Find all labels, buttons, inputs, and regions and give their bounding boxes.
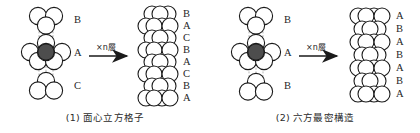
panel-hcp: ×n層 B A B A B A B A B A (2) 六方最密構造 — [210, 0, 420, 133]
fcc-stack-label-7: B — [183, 81, 190, 92]
hcp-diagram-svg — [210, 0, 420, 112]
fcc-stack-label-6: C — [183, 69, 190, 80]
hcp-arrow-label: ×n層 — [306, 44, 326, 52]
hcp-layer-B-top — [239, 7, 272, 34]
fcc-cluster-label-C: C — [74, 81, 81, 92]
hcp-left-cluster — [231, 7, 280, 100]
hcp-stack-column — [350, 8, 390, 102]
fcc-layer-C-bottom — [29, 72, 62, 99]
panel-fcc: ×n層 B A C B A C B A C B A (1) 面心立方格子 — [0, 0, 210, 133]
hcp-stack-label-4: B — [396, 50, 403, 61]
hcp-stack-label-2: B — [396, 24, 403, 35]
fcc-stack-label-1: B — [183, 9, 190, 20]
fcc-layer-B-top — [29, 7, 62, 34]
fcc-stack-label-5: A — [183, 57, 191, 68]
hcp-stack-label-1: A — [396, 11, 404, 22]
fcc-arrow-label: ×n層 — [96, 44, 116, 52]
hcp-stack-label-7: A — [396, 89, 404, 100]
fcc-stack-column — [138, 6, 178, 106]
hcp-stack-label-5: A — [396, 63, 404, 74]
fcc-diagram-svg — [0, 0, 210, 112]
fcc-stack-label-8: A — [183, 93, 191, 104]
fcc-center-atom-highlight — [38, 44, 54, 60]
fcc-cluster-label-B: B — [74, 15, 81, 26]
fcc-cluster-label-A: A — [74, 48, 82, 59]
hcp-cluster-label-B-top: B — [284, 15, 291, 26]
hcp-stack-label-3: A — [396, 37, 404, 48]
fcc-stack-label-4: B — [183, 45, 190, 56]
hcp-layer-B-bottom — [239, 73, 272, 100]
hcp-center-atom-highlight — [248, 44, 264, 60]
hcp-caption: (2) 六方最密構造 — [210, 110, 420, 124]
fcc-stack-label-3: C — [183, 33, 190, 44]
hcp-stack-label-6: B — [396, 76, 403, 87]
figure-root: ×n層 B A C B A C B A C B A (1) 面心立方格子 — [0, 0, 420, 133]
fcc-left-cluster — [21, 7, 70, 99]
fcc-caption: (1) 面心立方格子 — [0, 110, 210, 124]
fcc-stack-label-2: A — [183, 21, 191, 32]
hcp-cluster-label-B-bottom: B — [284, 81, 291, 92]
hcp-cluster-label-A: A — [284, 48, 292, 59]
fcc-arrow-label-text: ×n層 — [96, 43, 116, 52]
hcp-arrow-label-text: ×n層 — [306, 43, 326, 52]
